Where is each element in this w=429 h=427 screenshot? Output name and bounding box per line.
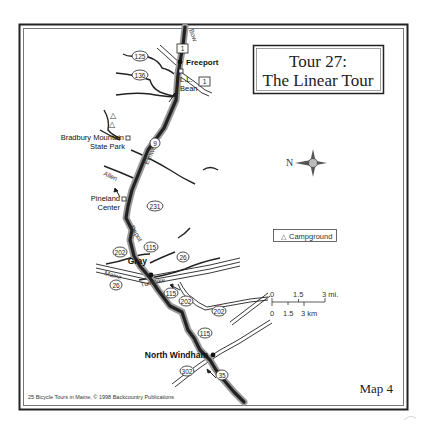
map-number: Map 4 <box>359 381 393 396</box>
shield-136: 136 <box>132 70 148 80</box>
svg-text:136: 136 <box>135 72 146 79</box>
label-freeport: Freeport <box>186 58 219 67</box>
scale-km-0: 0 <box>270 309 274 318</box>
shield-202a: 202 <box>113 247 127 257</box>
scale-bar <box>272 298 325 306</box>
svg-text:302: 302 <box>182 368 193 375</box>
svg-text:9: 9 <box>153 140 157 147</box>
pineland-marker <box>122 197 126 201</box>
label-ll-bean-1: L.L. <box>180 75 193 84</box>
shield-35: 35 <box>216 370 228 380</box>
svg-text:26: 26 <box>179 254 187 261</box>
page-curl-mark <box>404 416 416 420</box>
scale-mi-2: 3 mi. <box>322 290 338 299</box>
svg-text:125: 125 <box>135 53 146 60</box>
shield-231: 231 <box>147 201 163 211</box>
title-line2: The Linear Tour <box>263 71 374 90</box>
double-line-roads <box>96 45 272 387</box>
svg-text:202: 202 <box>214 308 225 315</box>
shield-26b: 26 <box>110 280 122 290</box>
campground-marker-2: △ <box>109 120 116 129</box>
credit-text: 25 Bicycle Tours in Maine, © 1998 Backco… <box>28 394 174 400</box>
label-north-windham: North Windham <box>145 350 209 360</box>
svg-text:202: 202 <box>115 249 126 256</box>
shield-202b: 202 <box>179 296 193 306</box>
gray-dot <box>149 273 154 278</box>
legend: △ Campground <box>274 230 337 242</box>
label-road-bow: Bow <box>188 28 199 43</box>
scale-mi-0: 0 <box>270 290 274 299</box>
shield-125: 125 <box>132 51 148 61</box>
scale-km-1: 1.5 <box>283 309 293 318</box>
label-pineland-1: Pineland <box>91 194 120 203</box>
title-line1: Tour 27: <box>289 52 347 71</box>
svg-text:35: 35 <box>218 372 226 379</box>
shield-9: 9 <box>150 138 160 148</box>
ll-bean-marker <box>179 69 183 73</box>
shield-1a: 1 <box>177 44 188 53</box>
legend-campground-label: Campground <box>289 232 332 241</box>
svg-text:202: 202 <box>181 298 192 305</box>
svg-text:1: 1 <box>203 78 207 85</box>
freeport-dot <box>178 60 183 65</box>
label-pineland-2: Center <box>97 203 120 212</box>
campground-marker-1: △ <box>110 111 117 120</box>
shield-115b: 115 <box>164 288 178 298</box>
compass-north-label: N <box>286 157 293 168</box>
scale-km-2: 3 km <box>301 309 317 318</box>
svg-text:26: 26 <box>112 282 120 289</box>
svg-text:115: 115 <box>200 330 211 337</box>
label-ll-bean-2: Bean <box>180 84 198 93</box>
north-windham-dot <box>211 353 216 358</box>
shield-115c: 115 <box>198 328 212 338</box>
label-bradbury-2: State Park <box>90 142 125 151</box>
tour-map: Tour 27: The Linear Tour <box>0 0 429 427</box>
svg-text:115: 115 <box>146 244 157 251</box>
bradbury-marker <box>126 136 130 140</box>
shield-202c: 202 <box>212 306 226 316</box>
shield-1b: 1 <box>199 77 210 86</box>
svg-text:115: 115 <box>166 290 177 297</box>
shield-302: 302 <box>180 366 194 376</box>
shield-115a: 115 <box>144 242 158 252</box>
label-gray: Gray <box>128 256 148 266</box>
compass: N <box>286 149 327 177</box>
campground-markers: △ △ <box>109 111 117 129</box>
label-bradbury-1: Bradbury Mountain <box>61 133 124 142</box>
place-labels: Freeport L.L. Bean Bradbury Mountain Sta… <box>61 58 219 360</box>
svg-text:231: 231 <box>150 203 161 210</box>
shield-26a: 26 <box>177 252 189 262</box>
label-road-maine: Maine <box>104 269 123 280</box>
title-box: Tour 27: The Linear Tour <box>254 46 384 94</box>
svg-text:1: 1 <box>181 45 185 52</box>
scale-mi-1: 1.5 <box>293 290 303 299</box>
